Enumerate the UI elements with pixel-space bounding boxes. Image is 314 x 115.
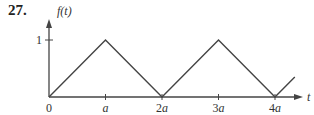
y-tick-label: 1 xyxy=(36,33,42,47)
y-axis-label: f(t) xyxy=(57,4,72,18)
triangle-wave-chart: 0a2a3a4a1f(t)t xyxy=(0,0,314,115)
x-tick-label: 0 xyxy=(46,101,52,115)
x-tick-label: 4a xyxy=(269,101,281,115)
x-axis-label: t xyxy=(307,90,311,104)
x-axis-arrow-icon xyxy=(294,94,303,100)
x-tick-label: 3a xyxy=(213,101,225,115)
y-axis-arrow-icon xyxy=(46,19,52,28)
x-tick-label: a xyxy=(103,101,109,115)
series-line-ft xyxy=(49,40,295,97)
x-tick-label: 2a xyxy=(156,101,168,115)
